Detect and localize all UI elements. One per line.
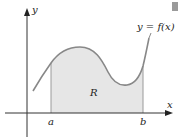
x-axis-arrow-icon — [165, 110, 173, 116]
curve-label: y = f(x) — [136, 21, 175, 32]
region-label: R — [89, 87, 98, 98]
curve-label-leader — [149, 33, 151, 38]
y-axis-label: y — [31, 4, 38, 15]
x-axis-label: x — [167, 99, 173, 110]
shaded-region-r — [51, 47, 143, 113]
bound-label-b: b — [140, 116, 146, 127]
corner-marker — [172, 2, 178, 11]
bound-label-a: a — [48, 116, 54, 127]
y-axis-arrow-icon — [24, 8, 30, 16]
area-under-curve-diagram: y x y = f(x) R a b — [0, 0, 179, 138]
